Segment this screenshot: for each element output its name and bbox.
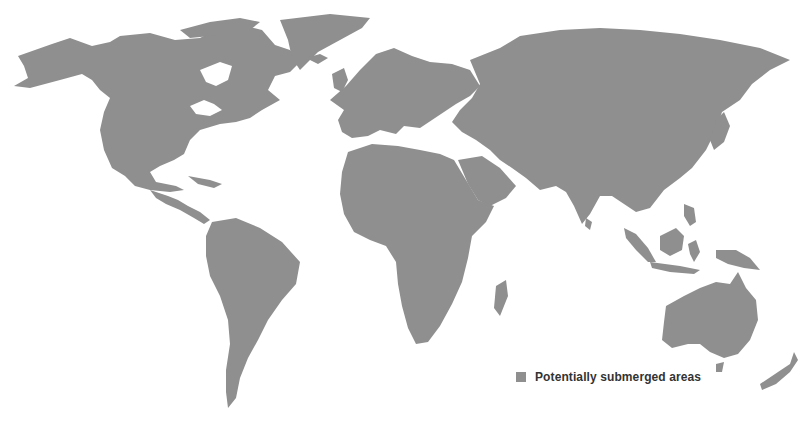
- central-america: [150, 190, 210, 224]
- caribbean: [188, 176, 222, 188]
- sulawesi: [688, 240, 700, 262]
- north-america: [14, 26, 300, 192]
- legend-swatch: [516, 372, 526, 382]
- borneo: [660, 228, 684, 256]
- new-zealand: [760, 352, 798, 390]
- sri-lanka: [585, 218, 592, 230]
- java: [650, 262, 700, 274]
- world-map: [0, 0, 805, 424]
- sumatra: [624, 228, 656, 262]
- tasmania: [716, 362, 724, 372]
- south-america: [206, 218, 300, 408]
- australia: [662, 272, 758, 358]
- philippines: [684, 204, 696, 226]
- new-guinea: [716, 250, 760, 270]
- legend-label: Potentially submerged areas: [535, 370, 701, 384]
- madagascar: [494, 280, 508, 316]
- map-legend: Potentially submerged areas: [516, 370, 701, 384]
